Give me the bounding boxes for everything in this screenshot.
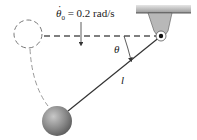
length-label: l [121, 75, 124, 86]
initial-position-dashed-circle [14, 20, 42, 48]
angle-arc [124, 36, 131, 60]
initial-angular-rate-label: ·θ0 = 0.2 rad/s [56, 8, 115, 22]
angle-label: θ [114, 44, 119, 55]
ball [42, 106, 72, 136]
pivot-pin [156, 31, 166, 41]
dashed-trajectory [30, 49, 48, 106]
